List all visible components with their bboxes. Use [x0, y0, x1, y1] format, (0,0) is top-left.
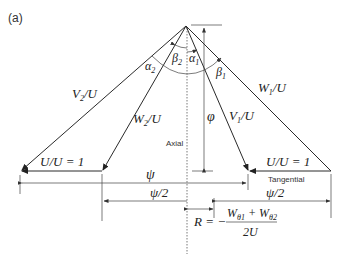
label-axial: Axial — [166, 139, 184, 148]
label-u-right: U/U = 1 — [266, 154, 310, 169]
vector-v1 — [186, 26, 248, 170]
formula-lhs: R = − — [193, 214, 226, 229]
label-w1: W1/U — [258, 80, 287, 97]
label-w2: W2/U — [133, 111, 162, 128]
vector-w2 — [103, 26, 186, 170]
label-v2: V2/U — [72, 86, 99, 103]
label-beta2: β2 — [171, 51, 182, 67]
label-psi-half-left: ψ/2 — [150, 185, 169, 200]
label-beta1: β1 — [215, 65, 226, 81]
velocity-triangle-diagram: (a) α2 β2 α1 β1 V2/U W2/U V1/U W1/U U/U … — [0, 0, 347, 254]
formula-numerator: Wθ1 + Wθ2 — [227, 206, 277, 222]
label-tangential: Tangential — [268, 175, 305, 184]
label-alpha2: α2 — [145, 59, 155, 75]
formula-denominator: 2U — [243, 225, 259, 239]
label-psi-half-right: ψ/2 — [266, 185, 285, 200]
label-v1: V1/U — [229, 108, 256, 125]
arc-beta2 — [175, 45, 187, 48]
label-phi: φ — [207, 109, 215, 124]
vector-v2 — [22, 26, 186, 170]
vector-w1 — [186, 26, 331, 171]
label-u-left: U/U = 1 — [40, 154, 84, 169]
label-psi: ψ — [146, 167, 155, 182]
panel-label: (a) — [8, 11, 23, 25]
